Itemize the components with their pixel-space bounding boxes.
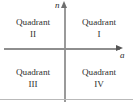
- horizontal-axis-label: a: [120, 51, 125, 60]
- quadrant-I-name: Quadrant: [70, 17, 128, 29]
- quadrant-III-label: Quadrant III: [4, 67, 62, 90]
- horizontal-axis-line: [4, 48, 120, 50]
- quadrant-diagram: n a Quadrant II Quadrant I Quadrant III …: [0, 0, 133, 109]
- quadrant-IV-numeral: IV: [70, 79, 128, 91]
- up-arrowhead-icon: [61, 1, 67, 8]
- quadrant-III-name: Quadrant: [4, 67, 62, 79]
- quadrant-IV-name: Quadrant: [70, 67, 128, 79]
- quadrant-III-numeral: III: [4, 79, 62, 91]
- quadrant-II-name: Quadrant: [4, 17, 62, 29]
- quadrant-II-numeral: II: [4, 29, 62, 41]
- vertical-axis-line: [64, 6, 66, 102]
- quadrant-I-numeral: I: [70, 29, 128, 41]
- page-divider-rule: [0, 99, 133, 100]
- quadrant-I-label: Quadrant I: [70, 17, 128, 40]
- quadrant-II-label: Quadrant II: [4, 17, 62, 40]
- vertical-axis-label: n: [55, 1, 60, 10]
- quadrant-IV-label: Quadrant IV: [70, 67, 128, 90]
